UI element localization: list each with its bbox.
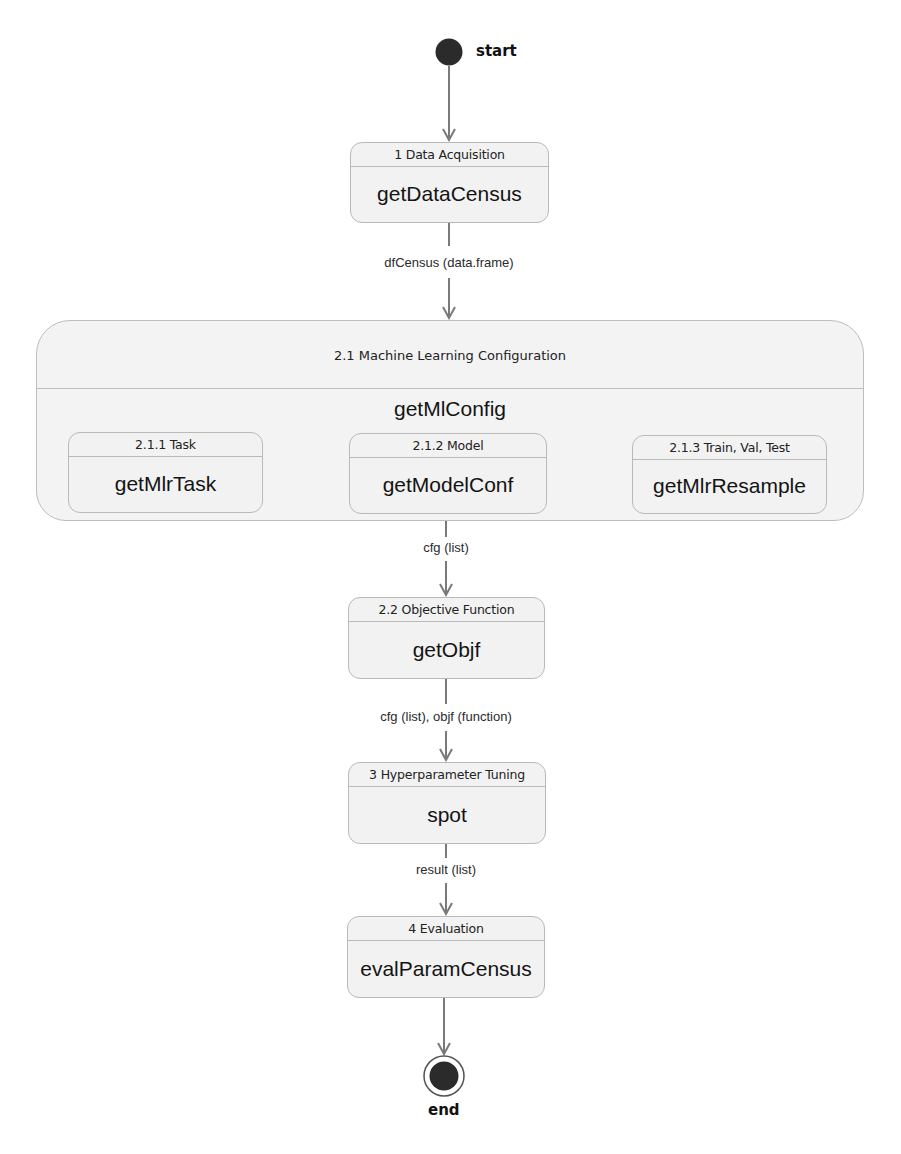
node-function: getObjf [349, 622, 544, 677]
edge-label-result: result (list) [416, 862, 476, 877]
node-objective-function[interactable]: 2.2 Objective Function getObjf [348, 597, 545, 679]
edge-label-dfcensus: dfCensus (data.frame) [384, 255, 513, 270]
end-label: end [428, 1101, 460, 1119]
node-header: 2.1.1 Task [69, 433, 262, 457]
node-header: 2.1.2 Model [350, 434, 546, 458]
node-function: getMlrResample [633, 460, 826, 512]
node-function: getModelConf [350, 458, 546, 512]
node-header: 2.1.3 Train, Val, Test [633, 436, 826, 460]
node-function: getMlrTask [69, 457, 262, 511]
node-function: getDataCensus [351, 167, 548, 221]
node-task[interactable]: 2.1.1 Task getMlrTask [68, 432, 263, 513]
node-header: 3 Hyperparameter Tuning [349, 763, 545, 787]
start-label: start [476, 42, 517, 60]
node-header: 4 Evaluation [348, 917, 544, 941]
node-model[interactable]: 2.1.2 Model getModelConf [349, 433, 547, 514]
node-resample[interactable]: 2.1.3 Train, Val, Test getMlrResample [632, 435, 827, 514]
node-evaluation[interactable]: 4 Evaluation evalParamCensus [347, 916, 545, 998]
composite-function: getMlConfig [37, 397, 863, 421]
node-hyperparameter-tuning[interactable]: 3 Hyperparameter Tuning spot [348, 762, 546, 844]
end-state-icon [424, 1056, 464, 1096]
node-header: 2.2 Objective Function [349, 598, 544, 622]
composite-header: 2.1 Machine Learning Configuration [37, 321, 863, 389]
node-header: 1 Data Acquisition [351, 143, 548, 167]
node-function: evalParamCensus [348, 941, 544, 996]
start-state-icon [436, 39, 463, 66]
node-data-acquisition[interactable]: 1 Data Acquisition getDataCensus [350, 142, 549, 223]
node-function: spot [349, 787, 545, 842]
edge-label-cfg: cfg (list) [423, 540, 469, 555]
edge-label-cfg-objf: cfg (list), objf (function) [380, 709, 512, 724]
